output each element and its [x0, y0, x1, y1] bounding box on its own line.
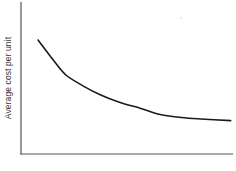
y-axis-label: Average cost per unit — [3, 37, 13, 119]
scan-speck — [181, 18, 182, 19]
chart-canvas — [0, 0, 236, 171]
average-cost-chart: Average cost per unit — [0, 0, 236, 171]
average-cost-curve — [38, 40, 231, 121]
